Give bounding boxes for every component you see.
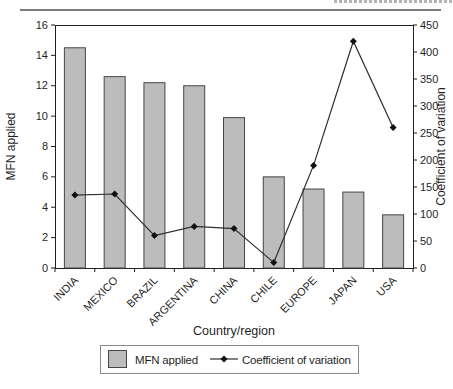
- x-category-label-chile: CHILE: [248, 274, 279, 305]
- right-tick-label: 100: [420, 208, 438, 220]
- left-tick-label: 4: [42, 201, 48, 213]
- chart-figure: 0246810121416050100150200250300350400450…: [0, 0, 453, 389]
- x-axis-title: Country/region: [193, 324, 275, 338]
- x-category-label-mexico: MEXICO: [81, 274, 120, 313]
- x-category-label-europe: EUROPE: [278, 274, 319, 315]
- bar-europe: [303, 189, 324, 268]
- right-tick-label: 0: [420, 262, 426, 274]
- left-tick-label: 16: [36, 19, 48, 31]
- x-category-label-india: INDIA: [51, 273, 81, 303]
- legend-bar-swatch: [109, 351, 127, 368]
- left-tick-label: 8: [42, 140, 48, 152]
- legend-label-bar-series: MFN applied: [135, 354, 198, 366]
- right-tick-label: 350: [420, 73, 438, 85]
- marker-europe: [310, 162, 317, 169]
- legend-label-line-series: Coefficient of variation: [242, 354, 351, 366]
- left-tick-label: 2: [42, 231, 48, 243]
- bar-india: [64, 48, 85, 268]
- legend: MFN applied Coefficient of variation: [101, 346, 359, 374]
- left-tick-label: 12: [36, 79, 48, 91]
- bar-brazil: [144, 83, 165, 268]
- left-tick-label: 6: [42, 170, 48, 182]
- x-category-label-china: CHINA: [207, 273, 240, 306]
- right-tick-label: 400: [420, 46, 438, 58]
- left-tick-label: 10: [36, 110, 48, 122]
- right-tick-label: 50: [420, 235, 432, 247]
- left-tick-label: 0: [42, 262, 48, 274]
- marker-usa: [390, 124, 397, 131]
- bar-japan: [343, 192, 364, 268]
- bar-mexico: [104, 77, 125, 268]
- left-y-axis-title: MFN applied: [4, 112, 18, 180]
- x-category-label-brazil: BRAZIL: [124, 274, 160, 310]
- marker-japan: [350, 38, 357, 45]
- x-category-label-usa: USA: [374, 273, 399, 298]
- bar-usa: [383, 215, 404, 268]
- left-tick-label: 14: [36, 49, 48, 61]
- bar-china: [224, 118, 245, 268]
- x-category-label-japan: JAPAN: [326, 274, 359, 307]
- right-y-axis-title: Coefficient of variation: [434, 87, 448, 206]
- plot-area: 0246810121416050100150200250300350400450…: [36, 19, 439, 328]
- bar-argentina: [184, 86, 205, 268]
- right-tick-label: 450: [420, 19, 438, 31]
- bar-chile: [263, 177, 284, 268]
